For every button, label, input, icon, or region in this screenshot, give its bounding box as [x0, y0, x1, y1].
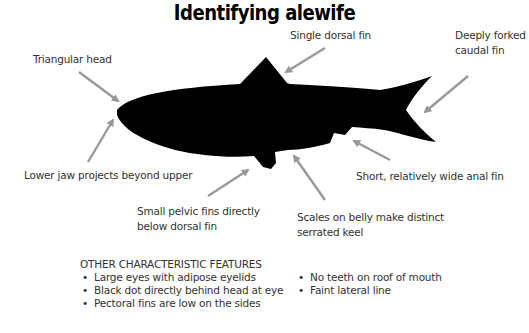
alewife-silhouette: [117, 57, 436, 169]
arrow-dorsal-fin: [286, 48, 325, 72]
arrow-lower-jaw: [88, 120, 113, 162]
label-caudal-fin-line2: caudal fin: [455, 43, 505, 58]
label-caudal-fin-line1: Deeply forked: [455, 28, 526, 43]
label-single-dorsal-fin: Single dorsal fin: [290, 28, 371, 43]
feature-item: Pectoral fins are low on the sides: [80, 297, 296, 310]
label-triangular-head: Triangular head: [33, 52, 112, 67]
features-list-left: Large eyes with adipose eyelids Black do…: [80, 271, 296, 310]
label-belly-keel-line1: Scales on belly make distinct: [297, 210, 444, 225]
arrow-pelvic-fin: [208, 170, 248, 196]
other-features: OTHER CHARACTERISTIC FEATURES Large eyes…: [80, 257, 442, 310]
features-list-right: No teeth on roof of mouth Faint lateral …: [296, 271, 442, 310]
label-lower-jaw: Lower jaw projects beyond upper: [24, 168, 192, 183]
feature-item: Large eyes with adipose eyelids: [80, 271, 296, 284]
features-heading: OTHER CHARACTERISTIC FEATURES: [80, 257, 442, 271]
label-belly-keel-line2: serrated keel: [297, 225, 363, 240]
arrow-caudal-fin: [425, 76, 468, 112]
label-pelvic-fins-line1: Small pelvic fins directly: [137, 204, 260, 219]
label-pelvic-fins-line2: below dorsal fin: [137, 219, 217, 234]
label-anal-fin: Short, relatively wide anal fin: [356, 169, 504, 184]
arrow-triangular-head: [79, 72, 118, 101]
feature-item: No teeth on roof of mouth: [296, 271, 442, 284]
arrow-anal-fin: [354, 141, 390, 160]
arrow-belly-keel: [294, 156, 325, 200]
feature-item: Faint lateral line: [296, 284, 442, 297]
feature-item: Black dot directly behind head at eye: [80, 284, 296, 297]
